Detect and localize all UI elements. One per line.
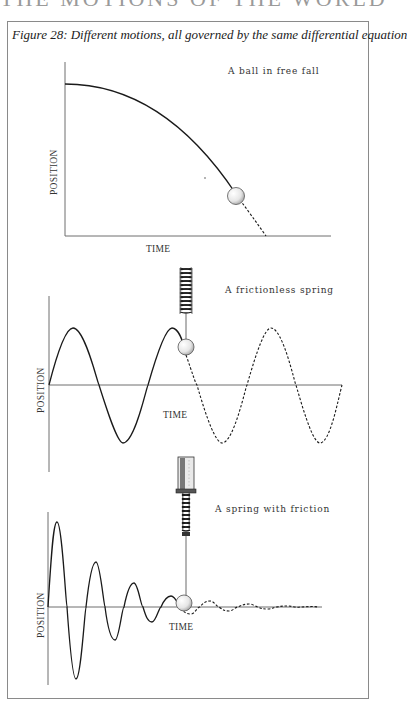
spring-ball — [178, 339, 194, 355]
speck — [204, 177, 206, 179]
falling-ball — [228, 188, 245, 205]
damped-curve-solid — [48, 522, 181, 679]
chart2-xlabel: TIME — [163, 410, 187, 420]
chart1-ylabel: POSITION — [49, 149, 59, 195]
fall-curve-dashed — [240, 200, 266, 236]
chart3-xlabel: TIME — [169, 622, 193, 632]
fall-curve-solid — [65, 84, 236, 194]
chart-frictionless-spring: A frictionless spring POSITION TIME — [36, 268, 342, 472]
coil-spring-icon — [180, 268, 192, 340]
chart-spring-with-friction: A spring with friction POSITION TIME — [36, 457, 330, 685]
chart2-ylabel: POSITION — [36, 367, 46, 413]
chart1-title: A ball in free fall — [227, 66, 319, 76]
chart-free-fall: A ball in free fall POSITION TIME — [49, 62, 331, 254]
chart3-title: A spring with friction — [214, 504, 330, 514]
chart1-xlabel: TIME — [146, 244, 170, 254]
chart3-ylabel: POSITION — [36, 592, 46, 638]
damped-ball — [176, 595, 192, 611]
damper-spring-icon — [176, 457, 196, 596]
chart2-title: A frictionless spring — [224, 285, 334, 295]
